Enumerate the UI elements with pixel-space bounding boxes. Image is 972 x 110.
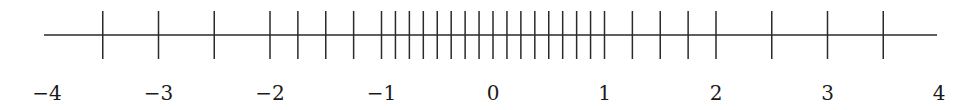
number-line-diagram: −4−3−2−101234 [0, 0, 972, 110]
tick-label: −2 [255, 81, 284, 105]
tick-label: −3 [144, 81, 173, 105]
tick-label: 4 [933, 81, 946, 105]
tick-label: 1 [598, 81, 611, 105]
tick-labels: −4−3−2−101234 [32, 81, 945, 105]
tick-label: −1 [367, 81, 396, 105]
tick-label: −4 [32, 81, 61, 105]
tick-label: 3 [821, 81, 834, 105]
tick-label: 2 [710, 81, 723, 105]
tick-label: 0 [487, 81, 500, 105]
